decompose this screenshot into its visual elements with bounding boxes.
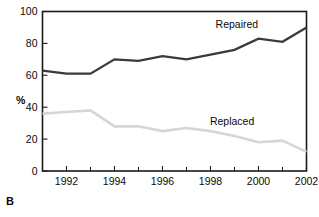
x-tick-label: 1992 bbox=[55, 175, 79, 187]
y-tick-label: 0 bbox=[32, 165, 38, 177]
x-tick-label: 2000 bbox=[247, 175, 271, 187]
x-tick-label: 2002 bbox=[295, 175, 319, 187]
series-label-repaired: Repaired bbox=[216, 18, 259, 30]
series-inline-labels: RepairedReplaced bbox=[210, 18, 258, 127]
series-label-replaced: Replaced bbox=[210, 115, 255, 127]
x-tick-label: 1998 bbox=[199, 175, 223, 187]
y-tick-label: 40 bbox=[26, 101, 38, 113]
y-tick-label: 60 bbox=[26, 69, 38, 81]
panel-label: B bbox=[6, 195, 14, 207]
x-axis-tick-labels: 199219941996199820002002 bbox=[55, 175, 319, 187]
series-line-repaired bbox=[43, 27, 307, 73]
y-tick-label: 20 bbox=[26, 133, 38, 145]
series-line-replaced bbox=[43, 110, 307, 151]
chart-figure: 020406080100 199219941996199820002002 Re… bbox=[0, 0, 319, 217]
y-axis-title: % bbox=[16, 94, 26, 106]
y-axis-tick-labels: 020406080100 bbox=[20, 5, 38, 177]
x-tick-label: 1994 bbox=[103, 175, 127, 187]
y-tick-label: 80 bbox=[26, 37, 38, 49]
plot-frame bbox=[43, 12, 307, 172]
line-chart-svg: 020406080100 199219941996199820002002 Re… bbox=[0, 0, 319, 217]
x-tick-label: 1996 bbox=[151, 175, 175, 187]
y-tick-label: 100 bbox=[20, 5, 38, 17]
data-series-group bbox=[43, 27, 307, 151]
